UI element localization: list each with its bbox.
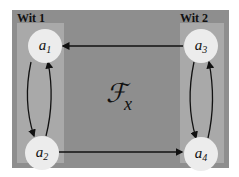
node-a4-subscript: 4 <box>202 152 207 163</box>
edge-a3-a4 <box>190 62 196 138</box>
node-a1-subscript: 1 <box>46 44 51 55</box>
node-a2: a2 <box>25 136 59 170</box>
node-a3-subscript: 3 <box>202 44 207 55</box>
node-a2-subscript: 2 <box>43 151 48 162</box>
center-label-subscript: x <box>124 94 132 114</box>
node-a4: a4 <box>184 137 218 171</box>
edge-a2-a1 <box>46 62 51 136</box>
center-label: ℱx <box>106 78 134 108</box>
node-a3: a3 <box>184 29 218 63</box>
center-label-symbol: ℱ <box>106 78 126 108</box>
node-a1: a1 <box>28 29 62 63</box>
edge-a1-a2 <box>27 62 34 136</box>
edge-a4-a3 <box>208 62 213 138</box>
